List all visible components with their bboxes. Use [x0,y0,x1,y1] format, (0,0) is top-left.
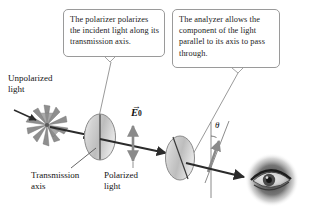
callout-analyzer: The analyzer allows the component of the… [172,9,280,68]
label-unpolarized-light: Unpolarized light [8,73,52,95]
beam-segment-transmitted [186,163,244,177]
callout-polarizer: The polarizer polarizes the incident lig… [63,9,165,57]
label-angle-theta: θ [215,120,219,130]
analyzer-axis-line [205,121,229,183]
transmission-axis-pointer [71,148,96,168]
incident-ray [14,110,36,120]
figure-canvas: The polarizer polarizes the incident lig… [0,0,313,213]
unpolarized-light-starburst [26,105,68,146]
analyzer-disk [166,136,195,180]
label-electric-field-vector: →E0 [131,104,142,118]
label-polarized-light: Polarized light [104,170,138,192]
efield-subscript: 0 [138,109,142,118]
transmitted-component-arrow [208,141,219,172]
efield-symbol: E [131,107,138,118]
angle-arc [211,136,217,138]
label-transmission-axis: Transmission axis [31,170,79,192]
observer-eye [245,153,299,207]
